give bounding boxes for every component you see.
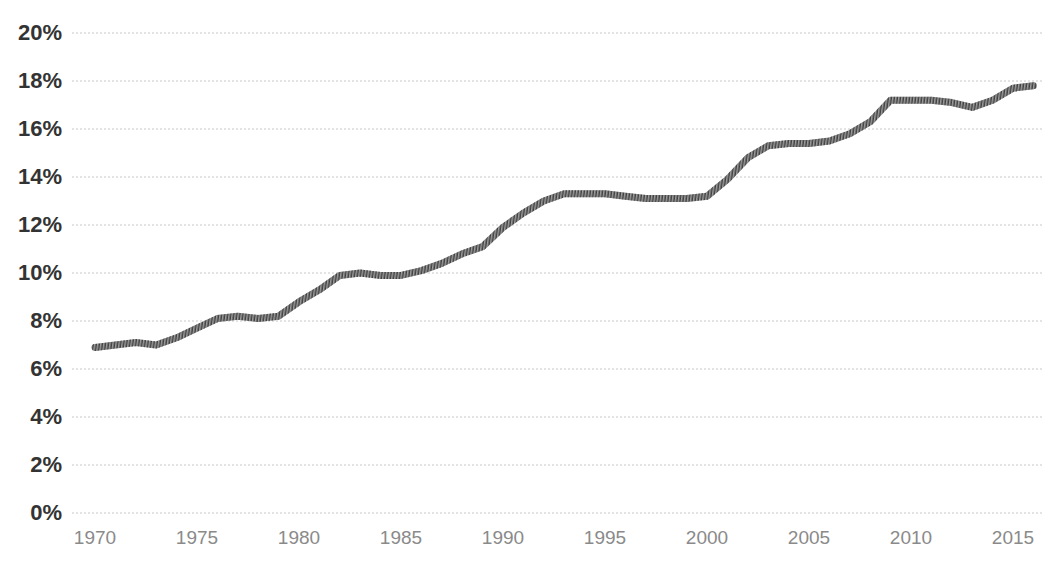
x-axis-tick-label: 1975 [176,528,218,547]
x-axis-tick-label: 1985 [380,528,422,547]
x-axis-tick-label: 2010 [890,528,932,547]
x-axis-tick-label: 1970 [74,528,116,547]
x-axis-labels: 1970197519801985199019952000200520102015 [0,0,1054,575]
chart-container: 20%18%16%14%12%10%8%6%4%2%0% 19701975198… [0,0,1054,575]
x-axis-tick-label: 2000 [686,528,728,547]
x-axis-tick-label: 2005 [788,528,830,547]
x-axis-tick-label: 1990 [482,528,524,547]
x-axis-tick-label: 1995 [584,528,626,547]
x-axis-tick-label: 1980 [278,528,320,547]
x-axis-tick-label: 2015 [992,528,1034,547]
